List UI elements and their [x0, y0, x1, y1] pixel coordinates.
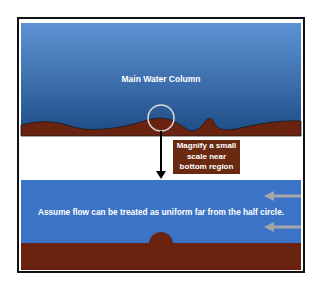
magnified-seabed: [21, 243, 301, 270]
uniform-flow-label: Assume flow can be treated as uniform fa…: [21, 207, 301, 217]
diagram-graphics: [0, 0, 321, 288]
arrow-down-icon: [156, 131, 166, 179]
main-water-column-label: Main Water Column: [21, 74, 301, 84]
magnify-note-line: scale near: [173, 152, 240, 163]
magnify-note-box: Magnify a small scale near bottom region: [173, 140, 240, 174]
magnify-note-line: Magnify a small: [173, 141, 240, 152]
magnify-note-line: bottom region: [173, 162, 240, 173]
